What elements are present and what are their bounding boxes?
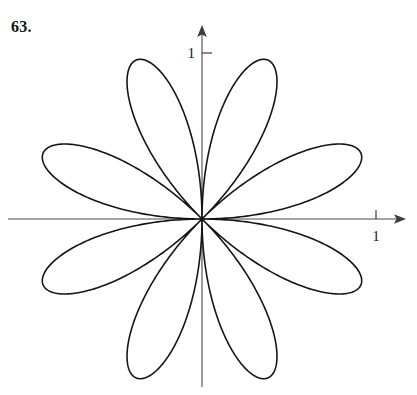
- axes-group: 1 1: [8, 25, 406, 387]
- y-axis-tick-label: 1: [188, 45, 196, 61]
- x-axis-tick-label: 1: [372, 228, 380, 244]
- polar-rose-plot: 1 1: [0, 0, 417, 395]
- figure-root: 63. 1 1: [0, 0, 417, 395]
